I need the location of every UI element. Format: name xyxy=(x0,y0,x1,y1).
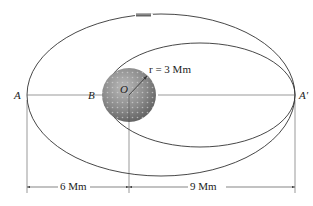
orbit-diagram: A B O A′ r = 3 Mm 6 Mm 9 Mm xyxy=(0,0,313,206)
label-9mm: 9 Mm xyxy=(190,180,217,192)
satellite-icon xyxy=(135,14,153,17)
label-O: O xyxy=(120,83,128,95)
label-A: A xyxy=(13,89,21,101)
label-radius: r = 3 Mm xyxy=(149,63,191,75)
label-A-prime: A′ xyxy=(298,89,309,101)
label-B: B xyxy=(88,89,95,101)
label-6mm: 6 Mm xyxy=(60,180,87,192)
